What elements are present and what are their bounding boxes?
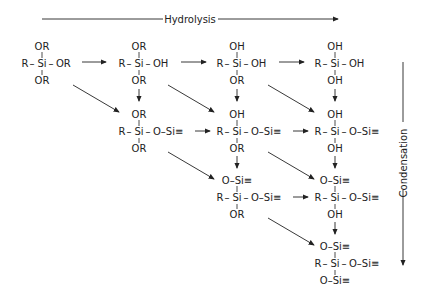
silicon-atom: Si bbox=[232, 126, 241, 137]
bond: – bbox=[323, 192, 328, 203]
r-group: R bbox=[119, 58, 126, 69]
bond: – bbox=[342, 192, 347, 203]
silicon-atom: Si bbox=[232, 192, 241, 203]
silicon-atom: Si bbox=[37, 58, 46, 69]
right-substituent: O–Si≡ bbox=[349, 192, 379, 203]
r-group: R bbox=[315, 58, 322, 69]
silicon-atom: Si bbox=[330, 258, 339, 269]
bottom-substituent: OR bbox=[230, 143, 245, 154]
diagram-canvas: Hydrolysis Condensation Si–R–ORORORSi–R–… bbox=[0, 0, 427, 298]
top-substituent: OR bbox=[132, 109, 147, 120]
bond: – bbox=[342, 58, 347, 69]
right-substituent: OH bbox=[153, 58, 168, 69]
bottom-substituent: OR bbox=[132, 143, 147, 154]
bond: – bbox=[225, 126, 230, 137]
top-substituent: OH bbox=[229, 41, 244, 52]
silicon-atom: Si bbox=[232, 58, 241, 69]
right-substituent: O–Si≡ bbox=[349, 126, 379, 137]
r-group: R bbox=[315, 126, 322, 137]
top-substituent: OR bbox=[132, 41, 147, 52]
right-substituent: OH bbox=[349, 58, 364, 69]
r-group: R bbox=[22, 58, 29, 69]
silicon-atom: Si bbox=[134, 126, 143, 137]
right-substituent: O–Si≡ bbox=[251, 126, 281, 137]
top-substituent: OH bbox=[327, 41, 342, 52]
top-substituent: OR bbox=[35, 41, 50, 52]
bond: – bbox=[146, 126, 151, 137]
hydrolysis-label: Hydrolysis bbox=[164, 14, 216, 25]
top-substituent: O–Si≡ bbox=[320, 241, 350, 252]
bond: – bbox=[342, 126, 347, 137]
top-substituent: O–Si≡ bbox=[320, 175, 350, 186]
bond: – bbox=[49, 58, 54, 69]
r-group: R bbox=[217, 126, 224, 137]
bond: – bbox=[323, 126, 328, 137]
bond: – bbox=[244, 126, 249, 137]
top-substituent: OH bbox=[327, 109, 342, 120]
bottom-substituent: OR bbox=[230, 75, 245, 86]
silicon-atom: Si bbox=[330, 126, 339, 137]
bottom-substituent: OH bbox=[327, 75, 342, 86]
bottom-substituent: O–Si≡ bbox=[320, 275, 350, 286]
silicon-atom: Si bbox=[330, 192, 339, 203]
right-substituent: O–Si≡ bbox=[349, 258, 379, 269]
bond: – bbox=[225, 192, 230, 203]
right-substituent: OR bbox=[56, 58, 71, 69]
bond: – bbox=[146, 58, 151, 69]
silicon-atom: Si bbox=[330, 58, 339, 69]
bottom-substituent: OR bbox=[35, 75, 50, 86]
bond: – bbox=[127, 126, 132, 137]
right-substituent: OH bbox=[251, 58, 266, 69]
top-substituent: O–Si≡ bbox=[222, 175, 252, 186]
right-substituent: O–Si≡ bbox=[251, 192, 281, 203]
top-substituent: OH bbox=[229, 109, 244, 120]
r-group: R bbox=[217, 58, 224, 69]
silicon-atom: Si bbox=[134, 58, 143, 69]
bond: – bbox=[225, 58, 230, 69]
r-group: R bbox=[315, 258, 322, 269]
bond: – bbox=[342, 258, 347, 269]
bond: – bbox=[244, 58, 249, 69]
r-group: R bbox=[217, 192, 224, 203]
bond: – bbox=[323, 58, 328, 69]
bottom-substituent: OH bbox=[327, 143, 342, 154]
bottom-substituent: OH bbox=[327, 209, 342, 220]
bond: – bbox=[244, 192, 249, 203]
bond: – bbox=[323, 258, 328, 269]
bond: – bbox=[127, 58, 132, 69]
bottom-substituent: OR bbox=[230, 209, 245, 220]
hydrolysis-condensation-diagram: Hydrolysis Condensation Si–R–ORORORSi–R–… bbox=[0, 0, 427, 298]
r-group: R bbox=[119, 126, 126, 137]
r-group: R bbox=[315, 192, 322, 203]
condensation-label: Condensation bbox=[398, 129, 409, 198]
right-substituent: O–Si≡ bbox=[153, 126, 183, 137]
bottom-substituent: OR bbox=[132, 75, 147, 86]
bond: – bbox=[30, 58, 35, 69]
